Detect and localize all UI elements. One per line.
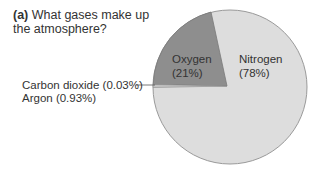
co2-label: Carbon dioxide (0.03%) xyxy=(22,79,143,92)
nitrogen-pct: (78%) xyxy=(239,67,270,79)
oxygen-label: Oxygen xyxy=(172,53,212,65)
oxygen-pct: (21%) xyxy=(172,67,203,79)
nitrogen-label: Nitrogen xyxy=(239,53,282,65)
argon-label: Argon (0.93%) xyxy=(22,92,96,105)
